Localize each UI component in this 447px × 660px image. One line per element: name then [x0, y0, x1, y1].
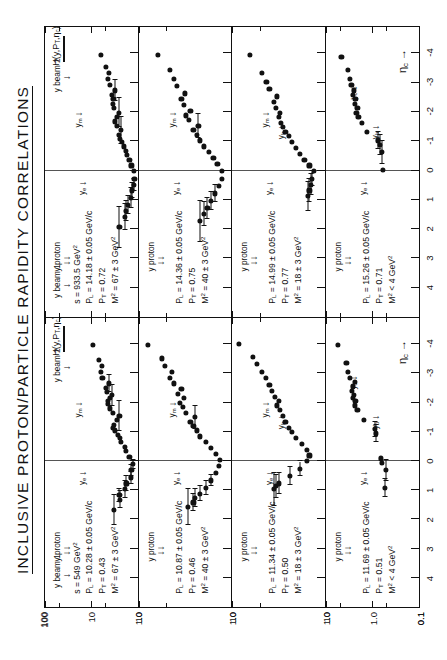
y-tick [45, 27, 46, 33]
y-m-label-right-1: ym↓ [73, 113, 83, 127]
x-axis-tick-label: 2 [424, 517, 435, 522]
y-e-label-right-2-text: ye [172, 188, 181, 195]
y-e-label-left-3: ye↓ [264, 473, 274, 485]
y-m-label-left-2-arrow-icon: ↓ [167, 401, 178, 406]
x-tick [223, 199, 231, 200]
panel-parameters-right-4: PL = 15.26 ± 0.05 GeV/cPT = 0.71M2 < 4 G… [360, 211, 398, 304]
y-tick [232, 27, 233, 33]
data-point [204, 440, 209, 445]
y-tick-minor [386, 603, 387, 607]
y-e-label-right-4-arrow-icon: ↓ [358, 181, 369, 186]
x-tick [317, 140, 325, 141]
y-e-label-right-3-arrow-icon: ↓ [264, 181, 275, 186]
param-pl: PL = 14.36 ± 0.05 GeV/c [173, 211, 186, 304]
y-e-label-left-1-text: ye [78, 478, 87, 485]
x-axis-tick-label: 3 [424, 256, 435, 261]
y-tick-minor [59, 603, 60, 607]
x-axis-tick-label: 4 [424, 285, 435, 290]
error-bar-cap [128, 483, 133, 484]
y-c-label-left-4-arrow-icon: ↓ [348, 375, 359, 380]
x-axis-tick-label: 4 [424, 576, 435, 581]
error-bar-cap [128, 207, 133, 208]
data-point [216, 463, 221, 468]
data-point [304, 459, 309, 464]
data-point [299, 441, 304, 446]
y-tick [45, 311, 46, 317]
error-bar-cap [380, 163, 385, 164]
y-proton-label: y proton↓↓ [334, 532, 353, 562]
data-point [116, 110, 121, 115]
y-b-label-left-4-text: yb [371, 422, 380, 429]
error-bar-cap [307, 201, 312, 202]
error-bar-cap [117, 400, 122, 401]
x-axis-name: ηc → [396, 340, 410, 364]
data-point [97, 358, 102, 363]
y-proton-label: y proton↓↓ [147, 532, 166, 562]
x-axis-tick-label: -4 [424, 48, 435, 56]
x-tick [130, 489, 138, 490]
error-bar-cap [106, 374, 111, 375]
panel-parameters-right-3: PL = 14.99 ± 0.05 GeV/cPT = 0.77M2 = 18 … [266, 211, 304, 304]
x-tick [130, 343, 138, 344]
data-point [259, 70, 264, 75]
error-bar-cap [129, 475, 134, 476]
y-e-label-left-2-text: ye [172, 478, 181, 485]
y-axis-top-label: 100 [38, 612, 49, 642]
data-point [293, 145, 298, 150]
data-point [263, 375, 268, 380]
y-proton-label: y proton↓↓ [240, 532, 259, 562]
y-axis-tick-label: 10 [227, 612, 238, 638]
param-pl: PL = 10.28 ± 0.05 GeV/c [83, 501, 96, 594]
function-legend: H(y,PT,ηc) [51, 27, 63, 66]
y-tick [139, 311, 140, 317]
y-m-label-left-2: ym↓ [167, 403, 177, 417]
y-beam1-label: y beam 1↓ [53, 554, 72, 588]
x-tick [223, 489, 231, 490]
data-point [218, 457, 223, 462]
data-point [99, 363, 104, 368]
x-tick [130, 82, 138, 83]
error-bar-cap [208, 486, 213, 487]
param-pl: PL = 15.26 ± 0.05 GeV/c [360, 211, 373, 304]
y-tick-minor [166, 603, 167, 607]
data-point [145, 343, 150, 348]
plot-panel-left-3: PL = 11.34 ± 0.05 GeV/cPT = 0.50M2 = 18 … [232, 317, 326, 607]
y-e-label-left-2: ye↓ [171, 473, 181, 485]
error-bar-cap [212, 201, 217, 202]
y-e-label-right-4-text: ye [359, 188, 368, 195]
data-point [98, 53, 103, 58]
error-bar-cap [383, 459, 388, 460]
param-m2: M2 < 4 GeV2 [386, 211, 398, 304]
error-bar-cap [122, 497, 127, 498]
x-tick [411, 82, 419, 83]
y-beam1-arrow-icon: ↓ [62, 254, 72, 288]
data-point [380, 167, 385, 172]
y-m-label-left-3-text: ym [261, 408, 270, 417]
data-point [302, 157, 307, 162]
x-tick [223, 82, 231, 83]
error-bar-cap [123, 220, 128, 221]
data-point [267, 87, 272, 92]
y-tick [91, 601, 92, 607]
data-point [181, 396, 186, 401]
y-tick [139, 601, 140, 607]
data-point [202, 144, 207, 149]
error-bar-cap [112, 79, 117, 80]
y-tick-minor [105, 318, 106, 322]
x-tick [130, 402, 138, 403]
y-m-label-right-1-text: ym [74, 118, 83, 127]
data-point [163, 363, 168, 368]
y-m-label-left-1-text: ym [74, 408, 83, 417]
param-m2: M2 = 18 ± 3 GeV2 [292, 501, 304, 593]
y-e-label-right-1: ye↓ [77, 183, 87, 195]
data-point [198, 491, 203, 496]
x-tick [317, 52, 325, 53]
x-axis-tick-label: 0 [424, 167, 435, 172]
data-point [359, 120, 364, 125]
data-point [206, 150, 211, 155]
data-point [355, 407, 360, 412]
function-legend-text: H(y,PT,ηc) [51, 27, 61, 66]
data-point [380, 460, 385, 465]
x-axis-tick-label: -3 [424, 369, 435, 377]
data-point [128, 475, 133, 480]
